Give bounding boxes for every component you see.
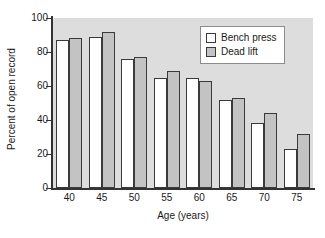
x-tick-label: 70 [249, 191, 279, 205]
bar-dead-lift-70 [264, 113, 277, 188]
bar-bench-press-65 [219, 100, 232, 188]
bar-bench-press-60 [186, 78, 199, 189]
x-tick-label: 45 [87, 191, 117, 205]
x-tick-label: 40 [54, 191, 84, 205]
bar-group [89, 18, 115, 188]
legend-label-bench-press: Bench press [221, 32, 277, 44]
y-tick-label: 80 [22, 47, 48, 57]
x-tick-label: 60 [184, 191, 214, 205]
y-tick-label: 20 [22, 149, 48, 159]
bar-group [284, 18, 310, 188]
bar-group [121, 18, 147, 188]
x-tick-label: 75 [282, 191, 312, 205]
y-tick-mark [46, 86, 52, 87]
y-tick-label: 100 [22, 13, 48, 23]
y-tick-mark [46, 154, 52, 155]
bar-chart-figure: Percent of open record 020406080100 4045… [0, 0, 325, 238]
bar-dead-lift-50 [134, 57, 147, 188]
y-tick-mark [46, 52, 52, 53]
x-axis-line [51, 188, 315, 190]
bar-group [154, 18, 180, 188]
y-tick-label: 0 [22, 183, 48, 193]
bar-bench-press-70 [251, 123, 264, 188]
legend-swatch-bench-press [206, 33, 216, 43]
legend-label-dead-lift: Dead lift [221, 46, 258, 58]
bar-dead-lift-75 [297, 134, 310, 188]
bar-bench-press-40 [56, 40, 69, 188]
legend-swatch-dead-lift [206, 47, 216, 57]
x-tick-label: 50 [119, 191, 149, 205]
y-tick-mark [46, 120, 52, 121]
y-tick-mark [46, 18, 52, 19]
x-axis-ticks: 4045505560657075 [53, 191, 313, 207]
x-axis-label: Age (years) [53, 210, 313, 221]
bar-dead-lift-60 [199, 81, 212, 188]
y-tick-mark [46, 188, 52, 189]
bar-dead-lift-40 [69, 38, 82, 188]
bar-bench-press-75 [284, 149, 297, 188]
y-tick-label: 40 [22, 115, 48, 125]
x-tick-label: 55 [152, 191, 182, 205]
x-tick-label: 65 [217, 191, 247, 205]
legend-item-bench-press: Bench press [206, 31, 277, 45]
y-axis-ticks: 020406080100 [18, 0, 48, 238]
bar-dead-lift-65 [232, 98, 245, 188]
bar-dead-lift-45 [102, 32, 115, 188]
bar-bench-press-50 [121, 59, 134, 188]
bar-bench-press-55 [154, 78, 167, 189]
bar-bench-press-45 [89, 37, 102, 188]
bar-dead-lift-55 [167, 71, 180, 188]
bar-group [56, 18, 82, 188]
y-tick-label: 60 [22, 81, 48, 91]
legend-item-dead-lift: Dead lift [206, 45, 277, 59]
chart-legend: Bench press Dead lift [200, 26, 285, 64]
